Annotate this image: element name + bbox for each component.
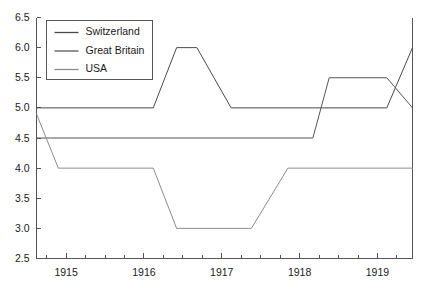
series-line-usa	[37, 114, 413, 228]
y-tick-label: 4.5	[15, 132, 30, 144]
y-tick-label: 2.5	[15, 252, 30, 264]
x-axis-ticks	[47, 253, 397, 259]
x-tick-label: 1919	[366, 266, 390, 278]
y-tick-label: 6.0	[15, 41, 30, 53]
legend-label-great-britain: Great Britain	[86, 44, 145, 56]
line-chart: 2.53.03.54.04.55.05.56.06.5 191519161917…	[0, 0, 423, 284]
legend-label-usa: USA	[86, 62, 108, 74]
y-tick-label: 4.0	[15, 162, 30, 174]
x-tick-label: 1915	[54, 266, 78, 278]
y-tick-label: 6.5	[15, 11, 30, 23]
chart-legend: SwitzerlandGreat BritainUSA	[47, 21, 153, 80]
y-tick-label: 5.5	[15, 71, 30, 83]
legend-label-switzerland: Switzerland	[86, 25, 140, 37]
y-tick-label: 3.0	[15, 222, 30, 234]
y-tick-label: 3.5	[15, 192, 30, 204]
x-tick-label: 1917	[210, 266, 234, 278]
y-axis-labels: 2.53.03.54.04.55.05.56.06.5	[15, 11, 30, 264]
chart-canvas: 2.53.03.54.04.55.05.56.06.5 191519161917…	[0, 0, 423, 284]
x-tick-label: 1918	[288, 266, 312, 278]
x-tick-label: 1916	[132, 266, 156, 278]
x-axis-labels: 19151916191719181919	[54, 266, 389, 278]
y-tick-label: 5.0	[15, 101, 30, 113]
